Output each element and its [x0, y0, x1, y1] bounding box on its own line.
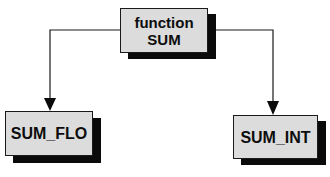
node-box: SUM_FLO [5, 111, 93, 156]
arrowhead-icon [267, 101, 279, 115]
edge-root-to-sum-int [215, 30, 279, 115]
node-label-line1: function [134, 14, 193, 31]
arrowhead-icon [44, 98, 56, 111]
edge-root-to-sum-flo [44, 30, 120, 111]
node-box: SUM_INT [233, 115, 318, 159]
node-box: function SUM [120, 8, 208, 53]
node-label: SUM_INT [240, 129, 310, 146]
node-label-line2: SUM [147, 31, 180, 48]
node-label: SUM_FLO [11, 125, 87, 142]
